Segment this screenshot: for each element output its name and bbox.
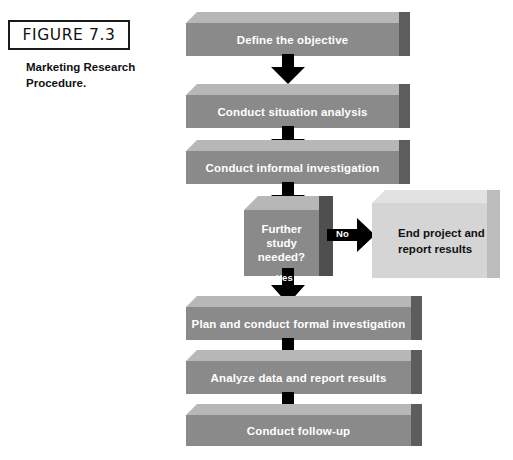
flow-step-define-the-objective: Define the objective <box>186 12 410 56</box>
arrow-down-icon-1 <box>271 54 305 84</box>
flow-decision-further-study-needed: Further study needed? <box>244 196 333 276</box>
box-front-face: Analyze data and report results <box>186 361 411 394</box>
terminal-label-line1: End project and <box>385 227 485 239</box>
box-front-face: Conduct follow-up <box>186 415 411 446</box>
flow-step-conduct-informal-investigation: Conduct informal investigation <box>186 140 410 184</box>
terminal-label: End project andreport results <box>372 225 485 257</box>
terminal-label-line2: report results <box>385 243 472 255</box>
box-front-face: Define the objective <box>186 23 399 56</box>
box-side-face <box>399 12 410 56</box>
box-side-face <box>487 190 500 278</box>
flow-step-label: Analyze data and report results <box>211 372 387 384</box>
decision-label-line3: needed? <box>258 250 305 264</box>
box-front-face: Conduct informal investigation <box>186 151 399 184</box>
box-top-face <box>186 12 410 23</box>
box-front-face: End project andreport results <box>372 203 487 278</box>
flowchart-diagram: Define the objective Conduct situation a… <box>0 0 513 460</box>
decision-label-line1: Further <box>261 222 301 236</box>
flow-step-conduct-situation-analysis: Conduct situation analysis <box>186 84 410 128</box>
flow-terminal-end-project-and-report-results: End project andreport results <box>372 190 500 278</box>
box-front-face: Conduct situation analysis <box>186 95 399 128</box>
flow-step-plan-and-conduct-formal-investigation: Plan and conduct formal investigation <box>186 296 422 340</box>
box-side-face <box>399 84 410 128</box>
box-side-face <box>411 296 422 340</box>
box-side-face <box>411 350 422 394</box>
decision-label-line2: study <box>266 236 297 250</box>
flow-step-label: Conduct informal investigation <box>206 162 380 174</box>
box-top-face <box>186 404 422 415</box>
flow-step-label: Conduct situation analysis <box>217 106 367 118</box>
box-top-face <box>186 84 410 95</box>
arrow-right-icon-no <box>327 218 375 252</box>
box-side-face <box>411 404 422 446</box>
box-top-face <box>186 140 410 151</box>
flow-step-analyze-data-and-report-results: Analyze data and report results <box>186 350 422 394</box>
box-top-face <box>186 350 422 361</box>
box-side-face <box>399 140 410 184</box>
box-front-face: Plan and conduct formal investigation <box>186 307 411 340</box>
box-top-face <box>372 190 500 203</box>
flow-step-label: Define the objective <box>237 34 349 46</box>
flow-step-label: Plan and conduct formal investigation <box>192 318 406 330</box>
box-front-face: Further study needed? <box>244 210 319 276</box>
flow-step-label: Conduct follow-up <box>247 425 350 437</box>
box-top-face <box>186 296 422 307</box>
flow-step-conduct-follow-up: Conduct follow-up <box>186 404 422 446</box>
